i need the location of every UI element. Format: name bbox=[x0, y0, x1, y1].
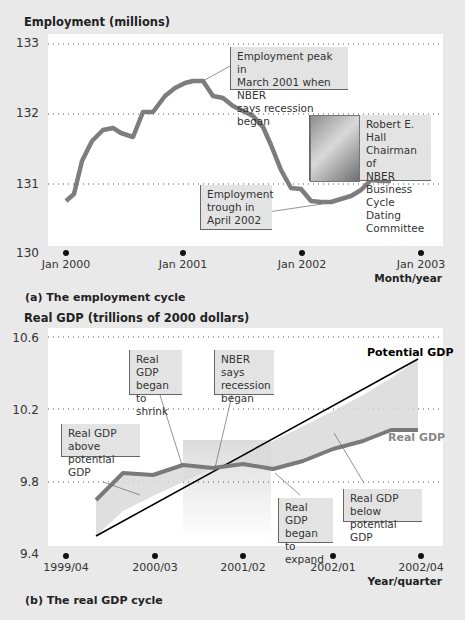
annotation-line: Real GDP bbox=[136, 353, 176, 379]
x-tick-1999-04: 1999/04 bbox=[26, 561, 106, 574]
x-tick-2001-02: 2001/02 bbox=[203, 561, 283, 574]
real-gdp-label: Real GDP bbox=[388, 431, 445, 444]
x-tick-2000-03: 2000/03 bbox=[115, 561, 195, 574]
annotation-line: began bbox=[221, 392, 268, 405]
annotation-line: Real GDP above bbox=[68, 427, 134, 453]
annotation-line: Real GDP below bbox=[350, 492, 416, 518]
annotation-line: began to bbox=[136, 379, 176, 405]
annotation-gdp-began-to-shrink: Real GDP began to shrink bbox=[129, 350, 182, 395]
annotation-gdp-above-potential: Real GDP above potential GDP bbox=[61, 424, 140, 457]
figure-page: Employment (millions) 133 132 131 130 Em… bbox=[0, 0, 465, 620]
annotation-line: potential GDP bbox=[68, 453, 134, 479]
annotation-line: shrink bbox=[136, 405, 176, 418]
annotation-gdp-below-potential: Real GDP below potential GDP bbox=[343, 489, 422, 522]
x-tick-2002-04: 2002/04 bbox=[381, 561, 461, 574]
gdp-x-axis-label: Year/quarter bbox=[322, 575, 442, 587]
annotation-line: potential GDP bbox=[350, 518, 416, 544]
annotation-line: began to bbox=[285, 527, 327, 553]
annotation-gdp-began-to-expand: Real GDP began to expand bbox=[278, 498, 333, 543]
annotation-line: Real GDP bbox=[285, 501, 327, 527]
annotation-nber-recession-began: NBER says recession began bbox=[214, 350, 274, 395]
x-tick-2002-01: 2002/01 bbox=[293, 561, 373, 574]
gdp-caption: (b) The real GDP cycle bbox=[25, 594, 163, 607]
annotation-line: recession bbox=[221, 379, 268, 392]
potential-gdp-label: Potential GDP bbox=[367, 346, 453, 359]
annotation-line: NBER says bbox=[221, 353, 268, 379]
